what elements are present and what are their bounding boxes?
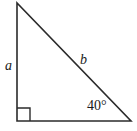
triangle-outline xyxy=(17,3,131,121)
right-angle-icon xyxy=(17,108,30,121)
triangle-drawing xyxy=(0,0,137,131)
right-triangle-figure: a b 40° xyxy=(0,0,137,131)
label-side-b: b xyxy=(80,53,87,67)
label-side-a: a xyxy=(5,59,12,73)
label-angle-40-degrees: 40° xyxy=(87,99,107,113)
